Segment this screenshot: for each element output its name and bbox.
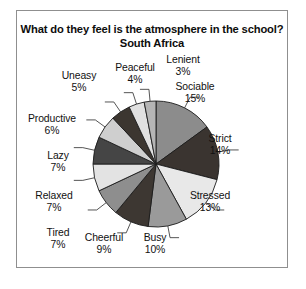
pie-slice-label-name: Sociable [175,81,214,92]
pie-slice-label-name: Relaxed [35,190,72,201]
pie-chart-plot: Sociable15%Strict14%Stressed13%Busy10%Ch… [17,11,289,269]
pie-leader-line [74,178,95,181]
pie-slice-label: Productive6% [18,113,86,136]
pie-slice-label: Strict14% [186,133,254,156]
pie-leader-line [88,203,106,210]
pie-slice-label-percent: 13% [176,202,244,214]
pie-slice-label-name: Uneasy [62,70,97,81]
pie-slice-label: Sociable15% [161,81,229,104]
pie-leader-line [124,93,137,104]
pie-slice-label-name: Productive [28,113,76,124]
pie-leader-line [86,120,105,127]
pie-slice-label-percent: 3% [149,66,217,78]
pie-slice-label: Relaxed7% [20,190,88,213]
pie-slice-label-name: Lazy [47,150,69,161]
pie-slice-label-percent: 7% [20,202,88,214]
pie-slice-label-name: Strict [208,133,231,144]
pie-slice-label-name: Stressed [190,190,230,201]
pie-slice-label-percent: 7% [24,162,92,174]
pie-slice-label-percent: 6% [18,125,86,137]
pie-slice-label-name: Busy [144,232,167,243]
pie-slice-label-name: Lenient [166,54,199,65]
pie-slice-label: Lenient3% [149,54,217,77]
pie-slice-label: Stressed13% [176,190,244,213]
pie-slice-label: Lazy7% [24,150,92,173]
pie-slice-label: Tired7% [24,227,92,250]
pie-leader-line [140,89,150,101]
chart-frame: What do they feel is the atmosphere in t… [16,10,288,268]
pie-leader-line [105,102,121,112]
pie-slice-label-percent: 7% [24,239,92,251]
pie-slice-label-name: Tired [47,227,70,238]
pie-slice-label-percent: 14% [186,145,254,157]
pie-slice-label-percent: 15% [161,93,229,105]
